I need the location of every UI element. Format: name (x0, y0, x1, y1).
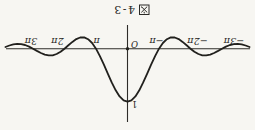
figure-rotated-container: −3π−2π−ππ2π3π O 1 4-3 (0, 0, 255, 130)
origin-label: O (131, 39, 138, 49)
peak-value-label: 1 (132, 99, 137, 109)
x-tick-label: π (93, 36, 101, 47)
scanned-figure-page: −3π−2π−ππ2π3π O 1 4-3 (0, 0, 255, 130)
figure-canvas: −3π−2π−ππ2π3π O 1 4-3 (0, 0, 255, 130)
x-tick-label: 2π (51, 36, 65, 47)
origin-point (126, 47, 129, 50)
x-tick-label: 3π (24, 36, 37, 47)
x-tick-label: −2π (187, 36, 208, 47)
caption-number-text: 4-3 (113, 3, 135, 16)
x-tick-label: −3π (223, 36, 244, 47)
kanji-zu-icon (140, 5, 150, 15)
figure-caption: 4-3 (113, 3, 149, 16)
x-tick-label: −π (149, 36, 164, 47)
